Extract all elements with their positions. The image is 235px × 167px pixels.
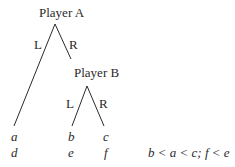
payoff-condition: b < a < c; f < e — [148, 146, 230, 159]
payoff-c: c — [103, 130, 109, 143]
node-player-b: Player B — [74, 66, 119, 79]
branch-b-right-label: R — [99, 97, 108, 110]
payoff-f: f — [104, 146, 108, 159]
payoff-d: d — [11, 146, 18, 159]
branch-a-left-label: L — [34, 38, 42, 51]
payoff-e: e — [68, 146, 74, 159]
branch-b-left-label: L — [66, 97, 74, 110]
payoff-a: a — [11, 130, 18, 143]
game-tree-edges — [0, 0, 235, 167]
node-player-a: Player A — [39, 6, 84, 19]
payoff-b: b — [68, 130, 75, 143]
edge-b-left — [72, 86, 87, 126]
branch-a-right-label: R — [69, 38, 78, 51]
